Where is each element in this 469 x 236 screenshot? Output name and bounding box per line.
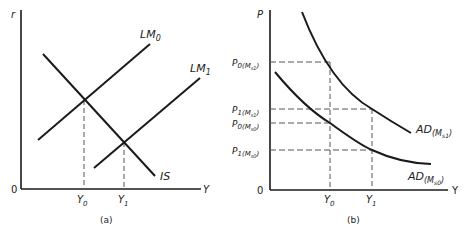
ad-ms1-label: AD(Ms1) (415, 123, 452, 139)
lm1-label: LM1 (190, 62, 211, 77)
is-lm-ad-diagram: r 0 Y LM0 LM1 IS Y0 Y1 (a) P 0 Y (0, 0, 469, 236)
panel-b-y1-tick: Y1 (366, 194, 377, 208)
lm0-curve (38, 44, 150, 140)
panel-b-x-axis-label: Y (451, 185, 459, 196)
panel-a-x-axis-label: Y (203, 184, 210, 195)
panel-b-caption: (b) (347, 215, 360, 225)
panel-a-y1-tick: Y1 (118, 194, 129, 208)
panel-b-ad: P 0 Y AD(Ms1) AD(Ms0) P0(Ms1) P1(Ms1) P0… (232, 9, 459, 225)
panel-a-origin-label: 0 (11, 184, 17, 195)
panel-a-y-axis-label: r (11, 9, 16, 20)
ad-ms0-label: AD(Ms0) (407, 170, 444, 186)
panel-b-y-axis-label: P (257, 9, 264, 20)
p0-ms1-tick: P0(Ms1) (232, 58, 259, 71)
p0-ms0-tick: P0(Ms0) (232, 119, 259, 132)
panel-a-y0-tick: Y0 (77, 194, 88, 208)
lm1-curve (94, 78, 200, 168)
is-curve (43, 54, 155, 176)
p1-ms1-tick: P1(Ms1) (232, 105, 259, 118)
is-label: IS (160, 170, 170, 183)
panel-a-is-lm: r 0 Y LM0 LM1 IS Y0 Y1 (a) (11, 9, 211, 225)
lm0-label: LM0 (140, 28, 161, 43)
p1-ms0-tick: P1(Ms0) (232, 146, 259, 159)
panel-b-origin-label: 0 (257, 185, 263, 196)
panel-a-caption: (a) (100, 215, 113, 225)
panel-b-y0-tick: Y0 (324, 194, 335, 208)
